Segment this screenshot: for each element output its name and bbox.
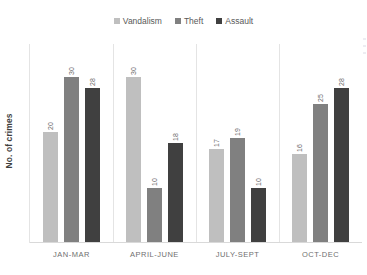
bar-value-label: 10	[147, 178, 162, 186]
bar-value-label: 19	[230, 128, 245, 136]
legend-label-assault: Assault	[225, 16, 253, 26]
bar-value-label-text: 30	[129, 67, 137, 75]
bar-value-label-text: 25	[316, 94, 324, 102]
bar-wrapper: 30	[64, 44, 79, 243]
legend-swatch-icon-theft	[175, 18, 181, 24]
bar-vandalism[interactable]	[43, 132, 58, 243]
bar-theft[interactable]	[313, 104, 328, 243]
bar-wrapper: 10	[251, 44, 266, 243]
category-label: JAN-MAR	[30, 249, 113, 263]
edge-crop-mark	[363, 45, 366, 47]
bar-value-label-text: 19	[233, 128, 241, 136]
bar-value-label: 10	[251, 178, 266, 186]
edge-crop-mark	[363, 52, 366, 54]
legend-item-vandalism[interactable]: Vandalism	[114, 16, 162, 26]
bar-value-label-text: 28	[88, 78, 96, 86]
legend-swatch-icon-vandalism	[114, 18, 120, 24]
bar-value-label: 17	[209, 139, 224, 147]
bar-wrapper: 19	[230, 44, 245, 243]
bar-value-label-text: 10	[150, 178, 158, 186]
legend-label-theft: Theft	[184, 16, 203, 26]
bar-vandalism[interactable]	[126, 77, 141, 243]
bar-wrapper: 25	[313, 44, 328, 243]
bar-theft[interactable]	[147, 188, 162, 243]
bar-value-label: 28	[334, 78, 349, 86]
bar-assault[interactable]	[334, 88, 349, 243]
legend-item-theft[interactable]: Theft	[175, 16, 203, 26]
bar-theft[interactable]	[64, 77, 79, 243]
category-label: OCT-DEC	[279, 249, 362, 263]
category-axis-labels: JAN-MARAPRIL-JUNEJULY-SEPTOCT-DEC	[30, 249, 362, 263]
bar-value-label: 16	[292, 144, 307, 152]
bar-assault[interactable]	[85, 88, 100, 243]
bar-group: 162528	[279, 44, 362, 243]
plot-area: 203028301018171910162528	[30, 44, 362, 243]
y-axis-title: No. of crimes	[2, 96, 16, 186]
bar-value-label-text: 17	[212, 139, 220, 147]
bar-value-label: 25	[313, 94, 328, 102]
bar-assault[interactable]	[251, 188, 266, 243]
bar-wrapper: 18	[168, 44, 183, 243]
bar-value-label-text: 20	[46, 122, 54, 130]
legend-label-vandalism: Vandalism	[123, 16, 162, 26]
bar-chart: Vandalism Theft Assault No. of crimes 20…	[0, 0, 367, 275]
legend-item-assault[interactable]: Assault	[216, 16, 253, 26]
category-label: APRIL-JUNE	[113, 249, 196, 263]
bar-wrapper: 20	[43, 44, 58, 243]
bar-wrapper: 30	[126, 44, 141, 243]
bar-value-label-text: 28	[337, 78, 345, 86]
bar-group: 301018	[113, 44, 196, 243]
edge-crop-mark	[363, 38, 366, 40]
bar-wrapper: 17	[209, 44, 224, 243]
cropped-title-sliver	[55, 0, 235, 5]
bar-group: 171910	[196, 44, 279, 243]
bar-wrapper: 16	[292, 44, 307, 243]
bar-value-label-text: 10	[254, 178, 262, 186]
bar-value-label: 18	[168, 133, 183, 141]
bar-value-label-text: 16	[295, 144, 303, 152]
bar-value-label: 30	[64, 67, 79, 75]
bar-wrapper: 10	[147, 44, 162, 243]
bar-vandalism[interactable]	[209, 149, 224, 243]
bar-group: 203028	[30, 44, 113, 243]
bar-groups: 203028301018171910162528	[30, 44, 362, 243]
bar-assault[interactable]	[168, 143, 183, 243]
bar-value-label-text: 18	[171, 133, 179, 141]
category-label: JULY-SEPT	[196, 249, 279, 263]
bar-value-label: 28	[85, 78, 100, 86]
bar-value-label: 30	[126, 67, 141, 75]
y-axis-title-text: No. of crimes	[4, 113, 14, 168]
chart-legend: Vandalism Theft Assault	[0, 14, 367, 27]
legend-swatch-icon-assault	[216, 18, 222, 24]
bar-vandalism[interactable]	[292, 154, 307, 243]
bar-wrapper: 28	[85, 44, 100, 243]
bar-value-label-text: 30	[67, 67, 75, 75]
bar-wrapper: 28	[334, 44, 349, 243]
x-axis-baseline	[30, 242, 362, 243]
bar-value-label: 20	[43, 122, 58, 130]
bar-theft[interactable]	[230, 138, 245, 243]
